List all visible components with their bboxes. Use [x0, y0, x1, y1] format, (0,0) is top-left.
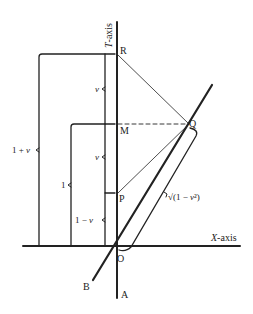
point-a-label: A	[121, 289, 129, 300]
spacetime-diagram: T-axis X-axis R M Q P O A B 1 + v 1 v v …	[0, 0, 253, 314]
point-r-label: R	[120, 45, 127, 56]
label-one: 1	[61, 180, 66, 190]
point-o-label: O	[117, 253, 124, 264]
point-p-label: P	[119, 193, 125, 204]
label-one-minus-v: 1 − v	[75, 215, 93, 225]
point-q-label: Q	[189, 118, 197, 129]
label-v-lower: v	[95, 152, 99, 162]
t-axis-label: T-axis	[103, 23, 114, 48]
label-one-plus-v: 1 + v	[12, 145, 30, 155]
point-b-label: B	[83, 281, 90, 292]
bracket-v-lower	[105, 124, 115, 193]
x-axis-label: X-axis	[210, 232, 237, 243]
rq-line	[118, 55, 189, 124]
bracket-sqrt	[119, 128, 197, 251]
bracket-one	[71, 124, 115, 246]
oq-line	[93, 85, 212, 280]
point-m-label: M	[120, 125, 129, 136]
bracket-sqrt-tick	[164, 192, 167, 197]
label-v-upper: v	[95, 84, 99, 94]
label-sqrt: √(1 − v²)	[168, 192, 200, 202]
